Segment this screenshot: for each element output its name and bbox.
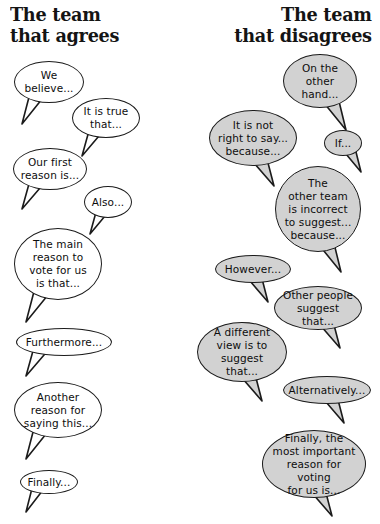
speech-bubble-text: Our first reason is... [21, 156, 79, 182]
speech-bubble-a-different-view[interactable]: A different view is to suggest that... [197, 322, 287, 382]
speech-bubble-text: The other team is incorrect to suggest..… [285, 177, 352, 242]
speech-bubble-it-is-not-right[interactable]: It is not right to say... because... [209, 110, 297, 166]
speech-bubble-text: Furthermore... [26, 336, 102, 349]
speech-bubble-another-reason[interactable]: Another reason for saying this... [14, 382, 102, 438]
speech-bubble-other-people[interactable]: Other people suggest that... [274, 286, 362, 330]
speech-bubble-however[interactable]: However... [215, 255, 291, 283]
speech-bubble-text: The main reason to vote for us is that..… [29, 238, 87, 290]
speech-bubble-on-the-other-hand[interactable]: On the other hand... [283, 54, 357, 108]
speech-bubble-other-team[interactable]: The other team is incorrect to suggest..… [275, 166, 361, 252]
speech-bubble-it-is-true[interactable]: It is true that... [72, 98, 140, 138]
speech-bubble-text: Also... [92, 196, 125, 209]
speech-bubble-text: On the other hand... [301, 62, 338, 101]
speech-bubble-finally-most[interactable]: Finally, the most important reason for v… [262, 430, 366, 498]
speech-bubble-the-main-reason[interactable]: The main reason to vote for us is that..… [14, 228, 102, 300]
speech-bubble-text: However... [225, 263, 281, 276]
speech-bubble-text: Finally... [28, 476, 71, 489]
speech-bubble-text: If... [335, 137, 352, 150]
page-title-disagrees: The team that disagrees [235, 4, 372, 46]
speech-bubble-our-first-reason[interactable]: Our first reason is... [13, 148, 87, 190]
speech-bubble-furthermore[interactable]: Furthermore... [16, 328, 112, 356]
speech-bubble-text: Alternatively... [289, 384, 366, 397]
speech-bubble-we-believe[interactable]: We believe... [14, 61, 84, 103]
speech-bubble-text: Finally, the most important reason for v… [269, 432, 359, 497]
speech-bubble-text: It is true that... [84, 105, 129, 131]
speech-bubble-finally[interactable]: Finally... [20, 470, 78, 494]
speech-bubble-also[interactable]: Also... [84, 186, 132, 218]
worksheet-canvas: The team that agrees The team that disag… [0, 0, 380, 524]
page-title-agrees: The team that agrees [10, 4, 119, 46]
speech-bubble-if[interactable]: If... [324, 130, 362, 156]
speech-bubble-text: It is not right to say... because... [218, 119, 288, 158]
speech-bubble-text: A different view is to suggest that... [204, 326, 280, 378]
speech-bubble-text: Another reason for saying this... [24, 391, 92, 430]
speech-bubble-alternatively[interactable]: Alternatively... [283, 376, 371, 404]
speech-bubble-text: We believe... [24, 69, 73, 95]
speech-bubble-text: Other people suggest that... [281, 289, 355, 328]
